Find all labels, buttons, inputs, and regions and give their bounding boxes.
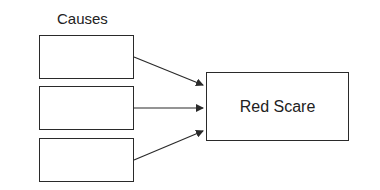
arrow-3 — [134, 131, 203, 160]
arrow-1 — [134, 57, 203, 85]
arrows-layer — [0, 0, 380, 190]
